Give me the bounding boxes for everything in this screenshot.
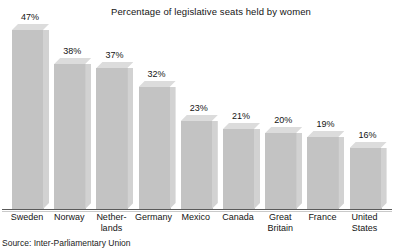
bar-mexico: 23% bbox=[181, 14, 219, 210]
bar-value-label: 37% bbox=[92, 50, 136, 61]
bar-body bbox=[96, 68, 134, 209]
bar-body bbox=[54, 64, 92, 209]
x-axis-tick-labels: SwedenNorwayNether-landsGermanyMexicoCan… bbox=[0, 212, 398, 236]
bar-front-face bbox=[265, 133, 297, 209]
bar-germany: 32% bbox=[139, 14, 177, 210]
bar-value-label: 16% bbox=[346, 130, 390, 141]
bar-top-face bbox=[139, 81, 176, 87]
tick-label-netherlands: Nether-lands bbox=[88, 212, 134, 233]
tick-label-norway: Norway bbox=[46, 212, 92, 223]
bar-body bbox=[139, 87, 177, 209]
bar-side-face bbox=[43, 30, 49, 209]
bar-top-face bbox=[307, 131, 344, 137]
bar-side-face bbox=[170, 87, 176, 209]
bar-front-face bbox=[223, 129, 255, 209]
bar-value-label: 21% bbox=[219, 111, 263, 122]
tick-label-germany: Germany bbox=[131, 212, 177, 223]
source-note: Source: Inter-Parliamentary Union bbox=[2, 238, 302, 248]
bar-value-label: 23% bbox=[177, 103, 221, 114]
bar-side-face bbox=[127, 68, 133, 209]
bar-body bbox=[307, 137, 345, 209]
bar-top-face bbox=[350, 142, 387, 148]
bar-side-face bbox=[254, 129, 260, 209]
bar-top-face bbox=[265, 127, 302, 133]
plot-area: 47%38%37%32%23%21%20%19%16% bbox=[0, 14, 398, 210]
tick-label-mexico: Mexico bbox=[173, 212, 219, 223]
bar-top-face bbox=[96, 62, 133, 68]
bar-great-britain: 20% bbox=[265, 14, 303, 210]
bar-front-face bbox=[54, 64, 86, 209]
tick-label-canada: Canada bbox=[215, 212, 261, 223]
bar-sweden: 47% bbox=[12, 14, 50, 210]
bar-value-label: 38% bbox=[50, 46, 94, 57]
bar-side-face bbox=[85, 64, 91, 209]
bar-value-label: 32% bbox=[135, 69, 179, 80]
bar-top-face bbox=[223, 123, 260, 129]
bar-netherlands: 37% bbox=[96, 14, 134, 210]
bar-body bbox=[181, 121, 219, 209]
tick-label-france: France bbox=[299, 212, 345, 223]
bar-front-face bbox=[12, 30, 44, 209]
bar-top-face bbox=[181, 115, 218, 121]
bar-body bbox=[223, 129, 261, 209]
tick-label-sweden: Sweden bbox=[4, 212, 50, 223]
bar-canada: 21% bbox=[223, 14, 261, 210]
bar-value-label: 20% bbox=[261, 115, 305, 126]
bar-side-face bbox=[212, 121, 218, 209]
bar-front-face bbox=[96, 68, 128, 209]
tick-label-united-states: UnitedStates bbox=[342, 212, 388, 233]
bar-france: 19% bbox=[307, 14, 345, 210]
bar-united-states: 16% bbox=[350, 14, 388, 210]
bar-top-face bbox=[12, 24, 49, 30]
bar-front-face bbox=[307, 137, 339, 209]
bar-top-face bbox=[54, 58, 91, 64]
bar-front-face bbox=[181, 121, 213, 209]
tick-label-great-britain: GreatBritain bbox=[257, 212, 303, 233]
bar-body bbox=[265, 133, 303, 209]
bar-norway: 38% bbox=[54, 14, 92, 210]
bar-body bbox=[350, 148, 388, 209]
bar-body bbox=[12, 30, 50, 209]
bar-value-label: 19% bbox=[303, 119, 347, 130]
bar-front-face bbox=[350, 148, 382, 209]
bar-side-face bbox=[338, 137, 344, 209]
bar-side-face bbox=[381, 148, 387, 209]
bar-value-label: 47% bbox=[8, 12, 52, 23]
bar-front-face bbox=[139, 87, 171, 209]
bar-side-face bbox=[296, 133, 302, 209]
